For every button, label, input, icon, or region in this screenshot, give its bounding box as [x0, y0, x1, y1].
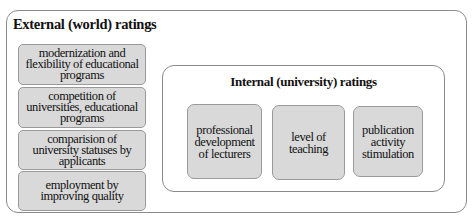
internal-ratings-title: Internal (university) ratings [162, 74, 445, 90]
external-item-modernization: modernization and flexibility of educati… [18, 44, 146, 85]
external-item-competition: competition of universities, educational… [18, 87, 146, 128]
external-ratings-title: External (world) ratings [13, 16, 156, 33]
internal-item-publication-activity: publication activity stimulation [353, 106, 423, 177]
external-item-employment: employment by improving quality [18, 171, 146, 211]
internal-item-level-of-teaching: level of teaching [272, 105, 345, 180]
internal-item-professional-development: professional development of lecturers [187, 104, 262, 179]
external-item-comparision: comparision of university statuses by ap… [18, 130, 146, 170]
